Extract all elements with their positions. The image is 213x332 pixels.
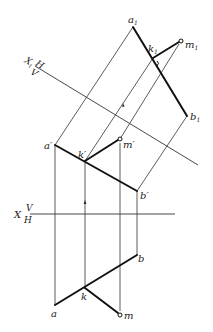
arrow-icon bbox=[84, 200, 87, 204]
label-b: b bbox=[138, 253, 144, 264]
proj-line-m-m1 bbox=[120, 44, 179, 139]
point-m1 bbox=[179, 39, 183, 43]
x1-axis-aux bbox=[35, 66, 198, 165]
label-k: k bbox=[81, 291, 87, 302]
label-a-prime: a′ bbox=[44, 140, 53, 151]
point-m-prime bbox=[118, 137, 122, 141]
right-angle-mark bbox=[157, 61, 159, 66]
segment-k'-m' bbox=[85, 140, 118, 161]
labels: a1 k1 m1 b1 a′ k′ m′ b′ b k a m X V H X … bbox=[13, 14, 200, 321]
point-markers bbox=[118, 39, 183, 317]
label-x-axis-bottom: H bbox=[23, 215, 32, 225]
label-x-axis: X bbox=[13, 209, 22, 220]
projection-lines bbox=[55, 27, 187, 311]
projection-diagram: a1 k1 m1 b1 a′ k′ m′ b′ b k a m X V H X … bbox=[0, 0, 213, 332]
point-m bbox=[118, 313, 122, 317]
object-lines bbox=[55, 27, 187, 313]
segment-k-m bbox=[85, 288, 118, 313]
label-a1: a1 bbox=[128, 14, 138, 26]
label-m-prime: m′ bbox=[123, 139, 135, 150]
label-k-prime: k′ bbox=[78, 149, 87, 160]
label-a: a bbox=[51, 308, 57, 319]
segment-a'-b' bbox=[55, 145, 137, 191]
label-x1-axis: X 1 H V bbox=[19, 52, 46, 79]
label-b-prime: b′ bbox=[140, 190, 149, 201]
label-x-axis-top: V bbox=[26, 203, 34, 213]
proj-line-a-a1 bbox=[55, 27, 133, 145]
proj-line-k-k1 bbox=[85, 58, 153, 161]
label-m: m bbox=[124, 310, 133, 321]
label-m1: m1 bbox=[185, 39, 198, 51]
label-k1: k1 bbox=[148, 43, 158, 55]
label-b1: b1 bbox=[190, 111, 200, 123]
